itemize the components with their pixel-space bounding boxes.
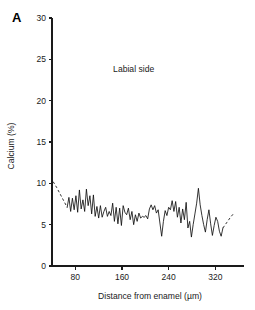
y-axis-title-group: Calcium (%) bbox=[6, 122, 16, 169]
x-axis-tick-labels: 80160240320 bbox=[71, 272, 223, 282]
data-series-line bbox=[53, 182, 67, 208]
y-tick-label: 30 bbox=[37, 13, 47, 23]
y-axis-title: Calcium (%) bbox=[6, 122, 16, 169]
x-axis-tick-marks bbox=[75, 266, 215, 270]
x-tick-label: 320 bbox=[208, 272, 222, 282]
y-tick-label: 15 bbox=[37, 137, 47, 147]
data-series-group bbox=[53, 182, 234, 237]
y-axis-tick-labels: 051015202530 bbox=[37, 13, 47, 271]
panel-label: A bbox=[12, 10, 22, 25]
y-tick-label: 5 bbox=[41, 220, 46, 230]
x-axis-title-group: Distance from enamel (µm) bbox=[98, 291, 202, 301]
panel-label-group: A bbox=[12, 10, 22, 25]
chart-annotations: Labial side bbox=[113, 64, 154, 74]
figure-panel-a: A 051015202530 80160240320 Calcium (%) D… bbox=[0, 0, 255, 310]
x-tick-label: 160 bbox=[115, 272, 129, 282]
data-series-line bbox=[223, 213, 234, 228]
x-tick-label: 80 bbox=[71, 272, 81, 282]
calcium-profile-chart: A 051015202530 80160240320 Calcium (%) D… bbox=[0, 0, 255, 310]
x-axis-title: Distance from enamel (µm) bbox=[98, 291, 202, 301]
axes-group bbox=[49, 18, 245, 270]
y-tick-label: 0 bbox=[41, 261, 46, 271]
y-tick-label: 20 bbox=[37, 96, 47, 106]
y-tick-label: 25 bbox=[37, 54, 47, 64]
x-tick-label: 240 bbox=[162, 272, 176, 282]
y-tick-label: 10 bbox=[37, 178, 47, 188]
data-series-line bbox=[67, 188, 223, 237]
chart-annotation-label: Labial side bbox=[113, 64, 154, 74]
